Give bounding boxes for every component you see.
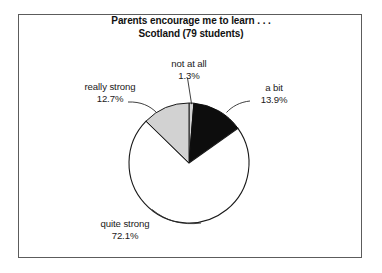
slice-label-really-strong-name: really strong: [85, 81, 136, 92]
slice-label-really-strong: really strong 12.7%: [58, 81, 162, 105]
pie-chart-svg: [0, 0, 382, 273]
slice-label-a-bit: a bit 13.9%: [224, 82, 324, 106]
slice-label-quite-strong-value: 72.1%: [72, 230, 178, 242]
slice-label-quite-strong-name: quite strong: [101, 218, 150, 229]
slice-label-not-at-all: not at all 1.3%: [139, 58, 239, 82]
slice-label-not-at-all-name: not at all: [171, 58, 206, 69]
slice-label-a-bit-value: 13.9%: [224, 94, 324, 106]
slice-label-really-strong-value: 12.7%: [58, 93, 162, 105]
slice-label-a-bit-name: a bit: [265, 82, 283, 93]
pie-slices: [129, 103, 249, 223]
pie-chart-figure: Parents encourage me to learn . . . Scot…: [0, 0, 382, 273]
slice-label-quite-strong: quite strong 72.1%: [72, 218, 178, 242]
